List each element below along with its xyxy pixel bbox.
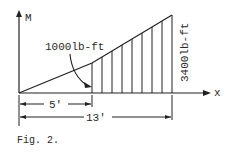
- x-axis-arrow-icon: [203, 90, 211, 96]
- arrowhead-icon: [20, 115, 26, 119]
- moment-line: [19, 15, 172, 93]
- annotation-end: 3400lb-ft: [179, 23, 191, 82]
- dim-short-label: 5': [49, 99, 62, 111]
- arrowhead-icon: [85, 102, 91, 106]
- arrowhead-icon: [165, 115, 171, 119]
- leader-arrow-head-icon: [84, 82, 92, 88]
- dim-long-label: 13': [86, 112, 106, 124]
- y-axis-label: M: [25, 12, 32, 24]
- annotation-mid: 1000lb-ft: [45, 41, 104, 53]
- figure-caption: Fig. 2.: [17, 135, 59, 146]
- y-axis-arrow-icon: [16, 10, 22, 17]
- bending-moment-diagram: M x 1000lb-ft 3400lb-ft 5' 13' Fig. 2.: [0, 0, 232, 152]
- x-axis-label: x: [214, 87, 221, 99]
- arrowhead-icon: [20, 102, 26, 106]
- leader-arrow: [70, 54, 88, 86]
- shaded-region: [92, 15, 172, 93]
